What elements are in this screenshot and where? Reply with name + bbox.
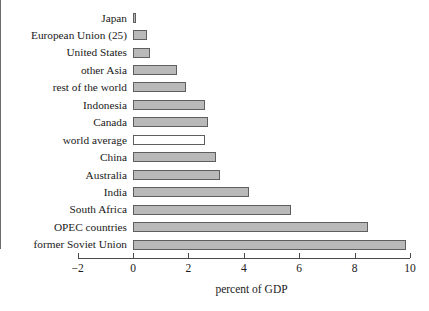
category-label: China bbox=[100, 149, 127, 166]
bar bbox=[133, 100, 205, 110]
bar bbox=[133, 13, 136, 23]
bar-row: OPEC countries bbox=[0, 219, 429, 236]
bar-row: world average bbox=[0, 132, 429, 149]
x-axis-tick-label: 10 bbox=[390, 261, 429, 275]
x-axis-line bbox=[78, 258, 410, 259]
category-label: world average bbox=[63, 132, 127, 149]
x-axis-tick-label: 8 bbox=[335, 261, 375, 275]
category-label: OPEC countries bbox=[54, 219, 127, 236]
x-axis-tick bbox=[355, 253, 356, 258]
x-axis-title: percent of GDP bbox=[0, 283, 429, 295]
bar bbox=[133, 152, 216, 162]
x-axis-tick bbox=[188, 253, 189, 258]
category-label: other Asia bbox=[81, 62, 127, 79]
x-axis-title-text: percent of GDP bbox=[215, 283, 287, 295]
category-label: Australia bbox=[86, 167, 127, 184]
bar bbox=[133, 135, 205, 145]
x-axis-tick-label: 6 bbox=[279, 261, 319, 275]
x-axis-tick bbox=[299, 253, 300, 258]
bar-row: United States bbox=[0, 44, 429, 61]
bar-row: India bbox=[0, 184, 429, 201]
category-label: former Soviet Union bbox=[34, 236, 128, 253]
category-label: Indonesia bbox=[83, 97, 127, 114]
plot-area: JapanEuropean Union (25)United Statesoth… bbox=[0, 0, 429, 311]
gdp-bar-chart: JapanEuropean Union (25)United Statesoth… bbox=[0, 0, 429, 311]
bar bbox=[133, 187, 249, 197]
x-axis-tick-label: 0 bbox=[113, 261, 153, 275]
bar-row: China bbox=[0, 149, 429, 166]
category-label: South Africa bbox=[70, 201, 127, 218]
x-axis-tick bbox=[133, 253, 134, 258]
bar bbox=[133, 48, 150, 58]
x-axis-tick bbox=[410, 253, 411, 258]
bar-row: former Soviet Union bbox=[0, 236, 429, 253]
category-label: European Union (25) bbox=[31, 27, 127, 44]
bar bbox=[133, 205, 291, 215]
bar bbox=[133, 30, 147, 40]
bar-row: Japan bbox=[0, 10, 429, 27]
x-axis-tick-label: 2 bbox=[168, 261, 208, 275]
x-axis-tick-label: −2 bbox=[58, 261, 98, 275]
category-label: United States bbox=[66, 44, 127, 61]
bar-row: South Africa bbox=[0, 201, 429, 218]
bar bbox=[133, 65, 177, 75]
x-axis-tick bbox=[244, 253, 245, 258]
category-label: India bbox=[104, 184, 127, 201]
bar-row: Australia bbox=[0, 167, 429, 184]
category-label: Canada bbox=[93, 114, 127, 131]
bar bbox=[133, 117, 208, 127]
category-label: Japan bbox=[101, 10, 127, 27]
bar-row: European Union (25) bbox=[0, 27, 429, 44]
bar bbox=[133, 170, 220, 180]
bar bbox=[133, 82, 186, 92]
bar-row: Indonesia bbox=[0, 97, 429, 114]
category-label: rest of the world bbox=[53, 79, 127, 96]
x-axis-tick bbox=[78, 253, 79, 258]
bar bbox=[133, 240, 406, 250]
bar-row: rest of the world bbox=[0, 79, 429, 96]
bar bbox=[133, 222, 368, 232]
bar-row: Canada bbox=[0, 114, 429, 131]
bar-row: other Asia bbox=[0, 62, 429, 79]
x-axis-tick-label: 4 bbox=[224, 261, 264, 275]
